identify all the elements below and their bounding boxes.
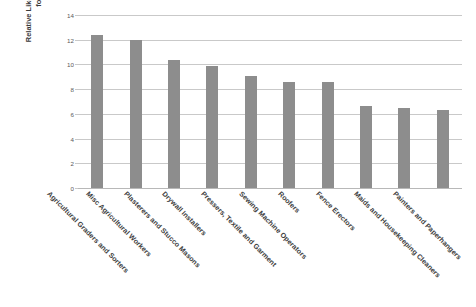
x-axis-tick-label: Maids and Housekeeping Cleaners xyxy=(353,190,443,280)
gridline xyxy=(78,188,462,189)
bar xyxy=(91,35,103,188)
y-axis-tick-label: 8 xyxy=(71,86,74,93)
y-axis-tick-mark xyxy=(75,188,78,189)
x-axis-tick-label: Fence Erectors xyxy=(314,190,356,232)
y-axis-tick-label: 12 xyxy=(67,36,74,43)
y-axis-tick-label: 2 xyxy=(71,160,74,167)
bar xyxy=(322,82,334,188)
bar-chart: Relative Likelihood of Employment in Occ… xyxy=(0,0,476,307)
bar xyxy=(206,66,218,188)
x-axis-tick-label: Plasterers and Stucco Masons xyxy=(122,190,201,269)
bar xyxy=(168,60,180,189)
y-axis-title: Relative Likelihood of Employment in Occ… xyxy=(14,0,54,48)
x-axis-tick-label: Misc Agricultural Workers xyxy=(84,190,152,258)
y-axis-tick-label: 14 xyxy=(67,12,74,19)
y-axis-tick-label: 10 xyxy=(67,61,74,68)
bars-group xyxy=(78,15,462,188)
bar xyxy=(437,110,449,188)
bar xyxy=(398,108,410,188)
x-axis-tick-label: Pressers, Textile and Garment xyxy=(199,190,278,269)
y-axis-title-text: Relative Likelihood of Employment in Occ… xyxy=(24,0,45,48)
x-axis-labels: Agricultural Graders and SortersMisc Agr… xyxy=(0,190,476,307)
plot-area: 14121086420 xyxy=(78,15,462,188)
bar xyxy=(283,82,295,188)
bar xyxy=(130,40,142,188)
x-axis-tick-label: Agricultural Graders and Sorters xyxy=(46,190,131,275)
bar xyxy=(360,106,372,188)
bar xyxy=(245,76,257,188)
x-axis-tick-label: Sewing Machine Operators xyxy=(238,190,309,261)
x-axis-tick-label: Painters and Paperhangers xyxy=(391,190,462,261)
y-axis-tick-label: 6 xyxy=(71,110,74,117)
y-axis-tick-label: 4 xyxy=(71,135,74,142)
x-axis-tick-label: Roofers xyxy=(276,190,301,215)
